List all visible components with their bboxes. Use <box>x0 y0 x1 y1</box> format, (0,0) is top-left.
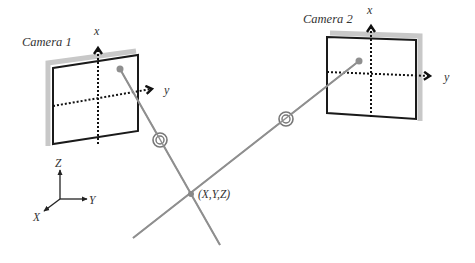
world-x-label: X <box>32 211 41 223</box>
stereo-diagram: Camera 1 x y Camera 2 x y Z Y X (X,Y,Z) <box>0 0 475 263</box>
camera-1-y-label: y <box>163 83 170 97</box>
world-y-label: Y <box>89 194 97 206</box>
world-z-label: Z <box>55 157 62 169</box>
world-point-label: (X,Y,Z) <box>198 188 230 201</box>
camera-1-image-plane <box>53 55 138 144</box>
camera-2-x-label: x <box>366 3 373 17</box>
world-x-axis <box>44 199 60 211</box>
camera-2-label: Camera 2 <box>303 12 353 26</box>
camera-1-label: Camera 1 <box>22 35 72 49</box>
camera-2-image-plane <box>327 37 416 119</box>
camera-2-y-label: y <box>443 70 450 84</box>
world-point <box>188 191 194 197</box>
world-axes <box>44 170 87 211</box>
camera-1-x-label: x <box>93 24 100 38</box>
ray-camera-1-overlay <box>120 69 220 245</box>
